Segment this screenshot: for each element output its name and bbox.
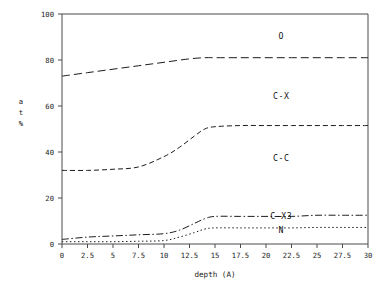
plot-frame <box>62 14 368 244</box>
y-tick-label: 40 <box>45 148 54 157</box>
series-label-n: N <box>279 225 285 235</box>
x-tick-label: 25 <box>313 251 322 260</box>
y-tick-label: 0 <box>50 240 54 249</box>
x-tick-label: 7.5 <box>132 251 145 260</box>
y-tick-label: 80 <box>45 56 54 65</box>
series-label-o: O <box>279 31 285 41</box>
x-tick-label: 5 <box>111 251 115 260</box>
series-line-n <box>62 227 368 241</box>
series-line-c-x3 <box>62 215 368 239</box>
y-tick-label: 60 <box>45 102 54 111</box>
x-tick-label: 2.5 <box>81 251 94 260</box>
chart-plot-area: 02.557.51012.51517.52022.52527.530 02040… <box>0 0 385 293</box>
series-annotations: OC-XC-CC-X3N <box>270 31 292 234</box>
x-axis-ticks: 02.557.51012.51517.52022.52527.530 <box>60 244 372 260</box>
x-axis-title: depth (A) <box>194 270 235 279</box>
plot-border <box>62 14 368 244</box>
y-axis-title-char-2: % <box>14 118 28 129</box>
y-axis-ticks: 020406080100 <box>41 10 62 249</box>
data-curves <box>62 58 368 242</box>
y-axis-title-char-1: t <box>14 107 28 118</box>
series-label-c-x3: C-X3 <box>270 211 292 221</box>
series-line-c-c <box>62 125 368 170</box>
y-axis-title-char-0: a <box>14 96 28 107</box>
y-tick-label: 20 <box>45 194 54 203</box>
x-tick-label: 12.5 <box>181 251 198 260</box>
x-tick-label: 15 <box>211 251 220 260</box>
x-tick-label: 17.5 <box>232 251 249 260</box>
series-label-c-c: C-C <box>273 153 290 163</box>
series-label-c-x: C-X <box>273 91 290 101</box>
x-tick-label: 0 <box>60 251 64 260</box>
chart-figure: 02.557.51012.51517.52022.52527.530 02040… <box>0 0 385 293</box>
x-tick-label: 22.5 <box>283 251 300 260</box>
series-line-o <box>62 58 368 76</box>
y-axis-title: at% <box>14 96 28 129</box>
y-tick-label: 100 <box>41 10 54 19</box>
x-tick-label: 10 <box>160 251 169 260</box>
x-tick-label: 20 <box>262 251 271 260</box>
x-tick-label: 30 <box>364 251 373 260</box>
x-tick-label: 27.5 <box>334 251 351 260</box>
